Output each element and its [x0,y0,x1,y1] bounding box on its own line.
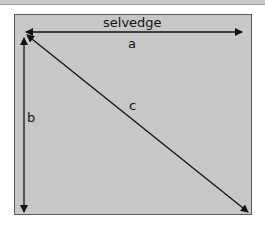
measurement-arrows [0,0,265,228]
width-label-a: a [128,37,136,50]
diagonal-arrow-c [27,35,248,212]
diagonal-label-c: c [129,99,136,112]
selvedge-label: selvedge [103,16,162,29]
height-label-b: b [27,111,35,124]
